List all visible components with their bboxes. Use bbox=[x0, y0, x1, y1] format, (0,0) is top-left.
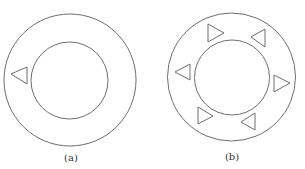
outer-circle-b bbox=[168, 13, 296, 141]
caption-b: (b) bbox=[225, 151, 239, 162]
triangle-marker-icon bbox=[198, 107, 213, 124]
outer-circle-a bbox=[4, 14, 136, 146]
inner-circle-a bbox=[31, 42, 108, 119]
triangle-marker-icon bbox=[251, 29, 265, 47]
figure-b: (b) bbox=[168, 13, 296, 162]
figure-a: (a) bbox=[4, 14, 136, 163]
triangle-marker-icon bbox=[11, 67, 27, 84]
triangle-marker-icon bbox=[241, 113, 255, 130]
diagram-canvas: (a) (b) bbox=[0, 0, 305, 169]
triangle-marker-icon bbox=[208, 24, 224, 42]
triangle-marker-icon bbox=[274, 75, 290, 92]
triangle-marker-icon bbox=[175, 64, 190, 80]
caption-a: (a) bbox=[64, 152, 78, 163]
inner-circle-b bbox=[195, 40, 270, 115]
